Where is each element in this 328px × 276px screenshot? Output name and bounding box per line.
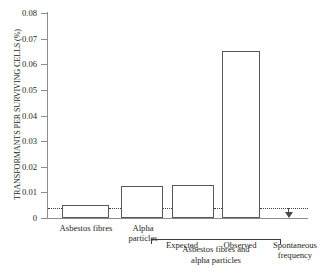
spontaneous-frequency-line-segment: [163, 208, 172, 209]
spontaneous-frequency-label: Spontaneous frequency: [262, 240, 328, 261]
bar: [222, 51, 260, 218]
y-axis-tick: [41, 90, 48, 91]
spontaneous-frequency-line-segment: [109, 208, 121, 209]
y-axis-tick: [41, 192, 48, 193]
x-axis-category-label: Asbestos fibres: [46, 223, 126, 233]
y-axis-tick-label: 0.05: [22, 85, 37, 95]
spontaneous-frequency-line-segment: [214, 208, 222, 209]
spontaneous-frequency-line-segment: [260, 208, 308, 209]
y-axis-tick-label: 0.06: [22, 59, 37, 69]
bar: [121, 186, 163, 218]
y-axis-tick-label: 0: [33, 213, 37, 223]
y-axis-tick-label: 0.08: [22, 8, 37, 18]
y-axis-tick: [41, 64, 48, 65]
y-axis-tick: [41, 13, 48, 14]
y-axis-tick: [41, 167, 48, 168]
y-axis-tick: [41, 39, 48, 40]
y-axis-tick-label: 0.04: [22, 111, 37, 121]
y-axis-tick-label: 0.02: [22, 162, 37, 172]
y-axis-tick-label: 0.01: [22, 187, 37, 197]
spontaneous-frequency-arrow-head: [285, 212, 293, 218]
bar-chart-figure: TRANSFORMANTS PER SURVIVING CELLS (%) 00…: [0, 0, 328, 276]
y-axis-tick: [41, 116, 48, 117]
y-axis-title: TRANSFORMANTS PER SURVIVING CELLS (%): [13, 10, 22, 220]
bar: [62, 205, 109, 218]
y-axis-tick: [41, 141, 48, 142]
x-axis-line: [47, 218, 308, 219]
spontaneous-frequency-line-segment: [48, 208, 62, 209]
y-axis-tick-label: 0.07: [22, 34, 37, 44]
y-axis-tick-label: 0.03: [22, 136, 37, 146]
y-axis-tick: [41, 218, 48, 219]
bar: [172, 185, 214, 218]
